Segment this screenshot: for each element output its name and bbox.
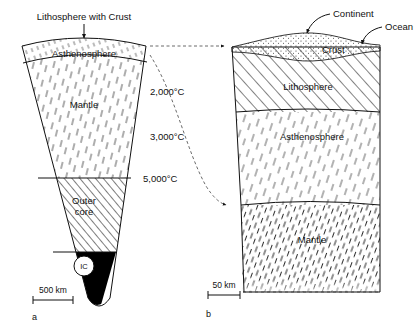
continent-callout-leader: [307, 14, 330, 33]
panel-b-lithosphere-label: Lithosphere: [283, 81, 333, 92]
continent-callout-label: Continent: [333, 8, 374, 19]
earth-cross-section-figure: IC Lithosphere with Crust Asthenosphere …: [0, 0, 420, 326]
lithosphere-with-crust-callout-label: Lithosphere with Crust: [37, 11, 132, 22]
figure-svg: IC Lithosphere with Crust Asthenosphere …: [0, 0, 420, 326]
ocean-callout-label: Ocean: [385, 21, 413, 32]
panel-a-scale-label: 500 km: [39, 285, 67, 295]
panel-a-asthenosphere-label: Asthenosphere: [52, 48, 116, 59]
panel-a-outer-core-label-line1: Outer: [72, 195, 96, 206]
inner-core-label: IC: [80, 262, 88, 271]
panel-a: IC Lithosphere with Crust Asthenosphere …: [22, 11, 185, 322]
panel-b-bottom-fade: [230, 240, 385, 302]
panel-a-mantle-label: Mantle: [70, 99, 99, 110]
panel-a-mantle-fill: [23, 55, 147, 178]
panel-b-scale-label: 50 km: [212, 280, 235, 290]
panel-b-label: b: [206, 309, 211, 319]
panel-a-scale-bar: [33, 296, 73, 304]
panel-b-crust-label: Crust: [322, 44, 345, 55]
temperature-label-5000: 5,000°C: [143, 173, 178, 184]
panel-b-mantle-label: Mantle: [298, 234, 327, 245]
panel-b-asthenosphere-fill: [236, 112, 380, 205]
temperature-label-2000: 2,000°C: [150, 86, 185, 97]
panel-a-label: a: [32, 312, 37, 322]
ocean-callout-leader: [362, 27, 382, 44]
panel-b-scale-bar: [208, 291, 240, 299]
panel-b: Continent Ocean Crust Lithosphere Asthen…: [206, 8, 413, 319]
panel-b-asthenosphere-label: Asthenosphere: [280, 131, 344, 142]
temperature-label-3000: 3,000°C: [150, 131, 185, 142]
panel-a-outer-core-label-line2: core: [75, 206, 93, 217]
